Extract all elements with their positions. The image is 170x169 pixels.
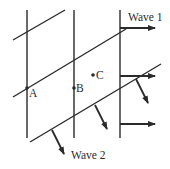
wave1-wavefronts: [27, 10, 120, 138]
wave-interference-diagram: A B C Wave 1 Wave 2: [0, 0, 170, 169]
wave1-label: Wave 1: [128, 11, 163, 23]
points: A B C: [25, 69, 104, 99]
point-a-label: A: [29, 87, 38, 99]
wave2-arrow-icon: [52, 130, 64, 154]
wave2-label: Wave 2: [71, 149, 106, 161]
wave2-arrow-icon: [95, 105, 107, 129]
wave2-wavefront-1: [13, 10, 65, 40]
point-c-marker: [91, 73, 95, 77]
point-b-label: B: [76, 82, 84, 94]
wave1-arrows: [120, 28, 155, 124]
wave2-arrow-icon: [136, 79, 148, 103]
wave2-arrows: [52, 79, 148, 154]
point-c-label: C: [96, 69, 104, 81]
